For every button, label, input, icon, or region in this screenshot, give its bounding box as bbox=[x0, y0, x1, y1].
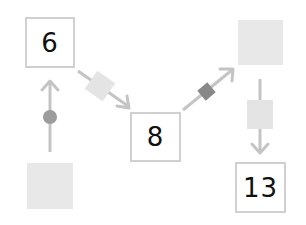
arrow-up-to-six bbox=[42, 81, 58, 152]
arrow-eight-to-blank bbox=[183, 69, 233, 110]
number-six-label: 6 bbox=[41, 28, 59, 58]
operator-rectangle-icon bbox=[247, 100, 273, 129]
number-eight-label: 8 bbox=[147, 122, 165, 152]
number-box-six: 6 bbox=[25, 17, 75, 68]
blank-box-bottom-left[interactable] bbox=[27, 163, 73, 209]
operator-square-light-icon bbox=[85, 71, 116, 102]
diagram-canvas: 6 8 13 bbox=[0, 0, 306, 225]
number-thirteen-label: 13 bbox=[243, 173, 278, 203]
blank-box-top-right[interactable] bbox=[238, 20, 283, 65]
operator-circle-icon bbox=[43, 110, 57, 124]
number-box-eight: 8 bbox=[130, 112, 181, 162]
arrow-six-to-eight bbox=[78, 71, 129, 108]
number-box-thirteen: 13 bbox=[235, 162, 286, 213]
arrow-blank-to-thirteen bbox=[247, 79, 273, 153]
